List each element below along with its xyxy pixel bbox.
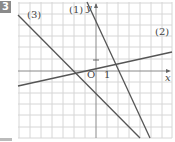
line-3-label: (3) xyxy=(27,10,41,20)
y-axis-arrow-icon xyxy=(94,3,98,8)
line-2-label: (2) xyxy=(155,27,169,37)
divider xyxy=(0,138,12,141)
x-axis-label: x xyxy=(165,73,171,83)
line-1-label: (1) xyxy=(69,5,83,15)
origin-label: O xyxy=(87,70,95,80)
y-axis-label: y xyxy=(86,3,92,13)
x-unit-label: 1 xyxy=(104,70,110,80)
